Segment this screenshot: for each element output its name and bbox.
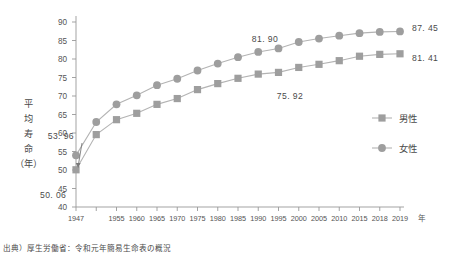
data-point-marker-female[interactable]	[113, 100, 121, 108]
data-point-marker-female[interactable]	[396, 28, 404, 36]
data-point-marker-male[interactable]	[234, 75, 241, 82]
annotation-value-label: 53. 96	[48, 131, 74, 141]
data-point-marker-female[interactable]	[153, 81, 161, 89]
x-axis-tick-label: 2018	[372, 214, 388, 223]
y-axis-tick-label: 85	[58, 37, 68, 46]
y-axis-title-char: 均	[24, 113, 33, 124]
data-point-marker-male[interactable]	[376, 51, 383, 58]
x-axis-tick-label: 1955	[108, 214, 124, 223]
data-point-marker-male[interactable]	[356, 53, 363, 60]
x-axis-unit-label: 年	[418, 213, 426, 223]
y-axis-title-char: 平	[24, 98, 33, 109]
data-point-marker-male[interactable]	[396, 50, 403, 57]
legend-marker-male	[378, 114, 385, 121]
y-axis-title-char: 命	[24, 143, 33, 154]
legend-label-male[interactable]: 男性	[399, 113, 417, 124]
data-point-marker-female[interactable]	[315, 35, 323, 43]
y-axis-tick-label: 65	[58, 111, 68, 120]
x-axis-tick-label: 1985	[230, 214, 246, 223]
annotation-value-label: 81. 90	[252, 34, 278, 44]
y-axis-tick-label: 75	[58, 74, 68, 83]
annotation-value-label: 81. 41	[412, 53, 438, 63]
data-point-marker-female[interactable]	[376, 28, 384, 36]
data-point-marker-male[interactable]	[214, 80, 221, 87]
y-axis-tick-label: 90	[58, 18, 68, 27]
series-line-female	[76, 31, 400, 155]
x-axis-tick-label: 1975	[189, 214, 205, 223]
y-axis-title-char: （年）	[15, 158, 42, 169]
data-point-marker-male[interactable]	[336, 57, 343, 64]
data-point-marker-male[interactable]	[255, 70, 262, 77]
legend-marker-female	[378, 144, 386, 152]
data-point-marker-male[interactable]	[174, 95, 181, 102]
x-axis-tick-label: 1965	[149, 214, 165, 223]
y-axis-tick-label: 80	[58, 55, 68, 64]
data-point-marker-female[interactable]	[335, 32, 343, 40]
x-axis-tick-label: 1995	[270, 214, 286, 223]
data-point-marker-female[interactable]	[133, 91, 141, 99]
data-point-marker-male[interactable]	[295, 64, 302, 71]
data-point-marker-male[interactable]	[153, 101, 160, 108]
x-axis-tick-label: 2000	[291, 214, 307, 223]
data-point-marker-female[interactable]	[72, 151, 80, 159]
data-point-marker-female[interactable]	[92, 118, 100, 126]
data-point-marker-female[interactable]	[234, 53, 242, 61]
x-axis-tick-label: 2005	[311, 214, 327, 223]
series-line-male	[76, 54, 400, 170]
x-axis-tick-label: 1960	[129, 214, 145, 223]
y-axis-tick-label: 50	[58, 166, 68, 175]
data-point-marker-male[interactable]	[93, 131, 100, 138]
annotation-value-label: 50. 06	[40, 190, 66, 200]
data-point-marker-male[interactable]	[275, 69, 282, 76]
y-axis-tick-label: 55	[58, 148, 68, 157]
x-axis-tick-label: 1980	[210, 214, 226, 223]
data-point-marker-male[interactable]	[133, 110, 140, 117]
x-axis-tick-label: 2019	[392, 214, 408, 223]
x-axis-tick-label: 2010	[331, 214, 347, 223]
data-point-marker-female[interactable]	[254, 48, 262, 56]
data-point-marker-female[interactable]	[214, 60, 222, 68]
y-axis-tick-label: 40	[58, 203, 68, 212]
data-point-marker-female[interactable]	[356, 29, 364, 37]
x-axis-tick-label: 1990	[250, 214, 266, 223]
data-point-marker-male[interactable]	[315, 61, 322, 68]
annotation-value-label: 75. 92	[277, 91, 303, 101]
data-point-marker-female[interactable]	[295, 38, 303, 46]
y-axis-tick-label: 70	[58, 92, 68, 101]
data-point-marker-female[interactable]	[173, 75, 181, 83]
data-point-marker-male[interactable]	[113, 116, 120, 123]
x-axis-tick-label: 1947	[68, 214, 84, 223]
chart-canvas: 4045505560657075808590194719551960196519…	[0, 0, 469, 260]
annotation-value-label: 87. 45	[412, 23, 438, 33]
data-point-marker-female[interactable]	[194, 67, 202, 75]
data-point-marker-female[interactable]	[275, 45, 283, 53]
x-axis-tick-label: 2015	[351, 214, 367, 223]
x-axis-tick-label: 1970	[169, 214, 185, 223]
data-point-marker-male[interactable]	[194, 86, 201, 93]
y-axis-title-char: 寿	[24, 128, 33, 139]
life-expectancy-chart: 4045505560657075808590194719551960196519…	[0, 0, 469, 260]
source-note: 出典）厚生労働省：令和元年簡易生命表の概況	[3, 242, 171, 253]
legend-label-female[interactable]: 女性	[399, 143, 417, 154]
